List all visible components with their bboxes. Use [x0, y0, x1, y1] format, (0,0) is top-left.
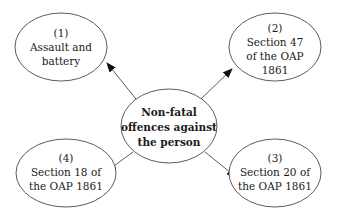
node-4-line-2: Section 18 of [31, 166, 102, 178]
center-node-non-fatal-offences: Non-fatal offences against the person [121, 89, 217, 163]
node-3-section-20: (3) Section 20 of the OAP 1861 [229, 139, 321, 207]
diagram-canvas: (1) Assault and battery (2) Section 47 o… [0, 0, 337, 217]
node-4-line-3: the OAP 1861 [29, 180, 103, 192]
node-2-section-47: (2) Section 47 of the OAP 1861 [229, 13, 321, 81]
center-line-2: offences against [121, 121, 217, 133]
node-2-line-3: of the OAP [246, 50, 303, 62]
node-2-line-4: 1861 [262, 64, 289, 76]
edge-center-to-1 [107, 63, 136, 99]
node-4-line-1: (4) [59, 152, 74, 164]
node-1-line-1: (1) [54, 27, 69, 39]
node-4-section-18: (4) Section 18 of the OAP 1861 [16, 139, 116, 207]
node-2-line-2: Section 47 [247, 36, 304, 48]
node-3-line-3: the OAP 1861 [238, 180, 312, 192]
center-line-1: Non-fatal [141, 106, 197, 118]
node-1-line-3: battery [42, 55, 81, 67]
node-3-line-2: Section 20 of [240, 166, 311, 178]
center-line-3: the person [138, 136, 201, 148]
edge-center-to-2 [201, 69, 232, 99]
node-1-line-2: Assault and [29, 41, 92, 53]
node-2-line-1: (2) [268, 22, 283, 34]
node-3-line-1: (3) [268, 152, 283, 164]
node-1-assault-and-battery: (1) Assault and battery [15, 13, 107, 81]
